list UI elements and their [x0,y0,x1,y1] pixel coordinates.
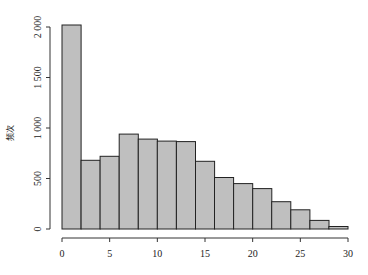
histogram-bar [272,202,291,229]
histogram-bar [291,210,310,229]
histogram-bar [81,160,100,229]
histogram-bar [196,161,215,229]
x-tick-label: 25 [295,248,305,259]
histogram-bar [62,25,81,229]
x-tick-label: 0 [60,248,65,259]
y-tick-label: 1 500 [32,66,43,89]
x-tick-label: 20 [248,248,258,259]
histogram-bar [329,227,348,230]
histogram-bar [215,178,234,230]
y-tick-label: 500 [32,171,43,186]
histogram-bar [310,220,329,229]
histogram-bar [176,142,195,229]
histogram-bar [157,141,176,229]
x-tick-label: 15 [200,248,210,259]
x-axis: 051015202530 [60,238,354,259]
histogram-chart: 051015202530 05001 0001 5002 000 频次 [0,0,368,275]
y-axis-label: 频次 [5,125,15,141]
x-tick-label: 30 [343,248,353,259]
histogram-bar [234,184,253,229]
histogram-bar [253,189,272,229]
y-tick-label: 2 000 [32,16,43,39]
y-axis: 05001 0001 5002 000 [32,16,50,232]
y-tick-label: 1 000 [32,117,43,140]
x-tick-label: 5 [107,248,112,259]
y-tick-label: 0 [32,227,43,232]
histogram-bar [100,156,119,229]
x-tick-label: 10 [152,248,162,259]
bars-group [62,25,348,229]
histogram-bar [119,134,138,229]
histogram-bar [138,139,157,229]
